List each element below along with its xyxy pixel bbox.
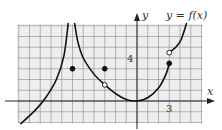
function-label: y = f(x) (165, 9, 207, 22)
open-point (102, 82, 107, 87)
y-tick-label-4: 4 (127, 53, 133, 64)
x-tick-label-3: 3 (166, 103, 172, 114)
y-axis-label: y (141, 9, 149, 22)
grid-background (17, 24, 202, 123)
open-point (167, 50, 172, 55)
filled-point (102, 66, 107, 71)
filled-point (70, 66, 75, 71)
y-axis-arrow-icon (134, 13, 140, 21)
function-graph: y x y = f(x) 4 3 (0, 0, 222, 130)
x-axis-arrow-icon (207, 98, 215, 104)
x-axis-label: x (207, 85, 214, 98)
filled-point (167, 61, 172, 66)
